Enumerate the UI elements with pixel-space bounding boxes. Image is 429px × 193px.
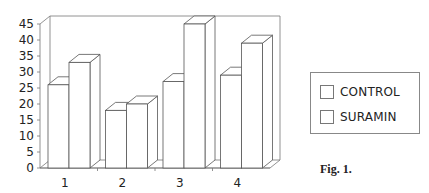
bar-side bbox=[148, 96, 158, 168]
bar-control-3 bbox=[163, 82, 184, 168]
x-tick-label: 3 bbox=[176, 176, 184, 190]
legend-item-control: CONTROL bbox=[320, 85, 400, 99]
y-tick-label: 5 bbox=[26, 145, 34, 159]
bar-control-4 bbox=[221, 75, 242, 168]
chart-legend: CONTROL SURAMIN bbox=[310, 72, 420, 134]
wall-edge bbox=[40, 16, 50, 24]
bar-control-2 bbox=[106, 110, 127, 168]
bar-suramin-2 bbox=[127, 104, 148, 168]
figure-caption: Fig. 1. bbox=[320, 162, 352, 177]
bar-side bbox=[205, 16, 215, 168]
suramin-swatch-icon bbox=[320, 110, 334, 124]
y-tick-label: 30 bbox=[19, 65, 34, 79]
y-tick-label: 20 bbox=[19, 97, 34, 111]
y-tick-label: 0 bbox=[26, 161, 34, 175]
legend-item-suramin: SURAMIN bbox=[320, 110, 397, 124]
x-tick-label: 1 bbox=[61, 176, 69, 190]
bar-side bbox=[90, 54, 100, 168]
y-tick-label: 35 bbox=[19, 49, 34, 63]
x-tick-label: 2 bbox=[118, 176, 126, 190]
bar-suramin-1 bbox=[69, 62, 90, 168]
bar-suramin-4 bbox=[242, 43, 263, 168]
legend-label-control: CONTROL bbox=[340, 85, 400, 99]
bar-suramin-3 bbox=[184, 24, 205, 168]
y-tick-label: 15 bbox=[19, 113, 34, 127]
legend-label-suramin: SURAMIN bbox=[340, 110, 397, 124]
bar-chart: 0510152025303540451234 bbox=[0, 0, 300, 193]
y-tick-label: 10 bbox=[19, 129, 34, 143]
control-swatch-icon bbox=[320, 85, 334, 99]
y-tick-label: 25 bbox=[19, 81, 34, 95]
y-tick-label: 40 bbox=[19, 33, 34, 47]
y-tick-label: 45 bbox=[19, 17, 34, 31]
bar-side bbox=[263, 35, 273, 168]
bar-control-1 bbox=[48, 85, 69, 168]
x-tick-label: 4 bbox=[233, 176, 241, 190]
